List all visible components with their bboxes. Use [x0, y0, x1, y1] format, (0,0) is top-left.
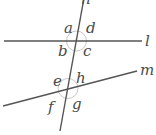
- angle-label-h: h: [76, 69, 86, 87]
- line-labels: lmn: [81, 0, 154, 79]
- angle-label-a: a: [64, 19, 73, 37]
- angle-label-c: c: [83, 42, 92, 60]
- line-label-m: m: [140, 61, 154, 79]
- angle-label-b: b: [58, 42, 68, 60]
- geometry-diagram: lmn adbcehfg: [0, 0, 156, 135]
- angle-label-d: d: [86, 19, 96, 37]
- line-label-l: l: [145, 32, 150, 50]
- angle-label-g: g: [72, 95, 82, 113]
- line-label-n: n: [81, 0, 91, 8]
- diagram-svg: lmn adbcehfg: [0, 0, 156, 135]
- angle-label-f: f: [47, 98, 56, 116]
- angle-label-e: e: [53, 72, 62, 90]
